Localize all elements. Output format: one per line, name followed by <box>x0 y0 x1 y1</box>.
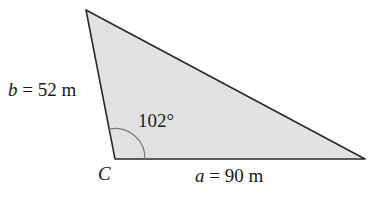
vertex-c-label: C <box>98 163 111 184</box>
triangle-shape <box>86 10 365 159</box>
angle-c-label: 102° <box>138 110 174 131</box>
side-a-label: a = 90 m <box>195 165 263 186</box>
triangle-diagram: b = 52 m 102° C a = 90 m <box>0 0 371 208</box>
side-b-label: b = 52 m <box>8 79 76 100</box>
